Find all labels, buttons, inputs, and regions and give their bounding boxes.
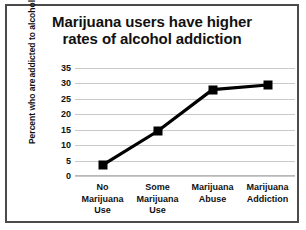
x-axis-tick-label-line: Use bbox=[76, 205, 129, 217]
y-axis-tick-label: 25 bbox=[61, 95, 71, 104]
y-axis-tick-label: 5 bbox=[66, 157, 71, 166]
x-axis-tick-label-line: Use bbox=[131, 205, 184, 217]
y-axis-title: Percent who are addicted to alcohol bbox=[21, 15, 43, 130]
x-axis-tick-label: SomeMarijuanaUse bbox=[130, 182, 185, 228]
x-axis-tick-label-line: Marijuana bbox=[76, 194, 129, 206]
x-axis-tick-label-line: Some bbox=[131, 182, 184, 194]
series-line bbox=[75, 68, 295, 176]
y-axis-tick-label: 0 bbox=[66, 172, 71, 181]
chart-title-line-2: rates of alcohol addiction bbox=[7, 30, 297, 47]
x-axis-tick-labels: NoMarijuanaUseSomeMarijuanaUseMarijuanaA… bbox=[75, 182, 295, 228]
y-axis-tick-label: 30 bbox=[61, 79, 71, 88]
data-point-marker bbox=[263, 80, 272, 89]
x-axis-tick-label-line: Addiction bbox=[241, 194, 294, 206]
plot-area bbox=[75, 68, 295, 176]
chart-title-line-1: Marijuana users have higher bbox=[7, 13, 297, 30]
y-axis-tick-label: 15 bbox=[61, 126, 71, 135]
data-point-marker bbox=[208, 85, 217, 94]
x-axis-tick-label-line: Abuse bbox=[186, 194, 239, 206]
x-axis-tick-label-line: Marijuana bbox=[131, 194, 184, 206]
series-polyline bbox=[103, 85, 268, 165]
x-axis-tick-label-line: Marijuana bbox=[241, 182, 294, 194]
x-axis-tick-label: MarijuanaAddiction bbox=[240, 182, 295, 228]
data-point-marker bbox=[153, 127, 162, 136]
data-point-marker bbox=[98, 161, 107, 170]
chart-title: Marijuana users have higher rates of alc… bbox=[7, 13, 297, 47]
x-axis-tick-label: MarijuanaAbuse bbox=[185, 182, 240, 228]
x-axis-tick-label: NoMarijuanaUse bbox=[75, 182, 130, 228]
y-axis-tick-labels: 35302520151050 bbox=[51, 61, 71, 183]
y-axis-title-line-1: Percent who are bbox=[27, 78, 37, 144]
x-axis-tick-label-line: Marijuana bbox=[186, 182, 239, 194]
chart-frame: Marijuana users have higher rates of alc… bbox=[5, 4, 299, 223]
y-axis-title-line-2: addicted to alcohol bbox=[27, 0, 37, 77]
gridline bbox=[75, 176, 295, 177]
x-axis-tick-label-line: No bbox=[76, 182, 129, 194]
y-axis-tick-label: 10 bbox=[61, 141, 71, 150]
y-axis-tick-label: 20 bbox=[61, 110, 71, 119]
y-axis-tick-label: 35 bbox=[61, 64, 71, 73]
